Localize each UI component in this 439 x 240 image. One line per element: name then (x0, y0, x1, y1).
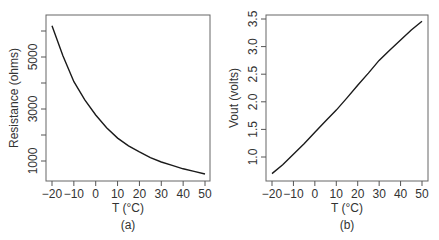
y-axis-label-a: Resistance (ohms) (7, 48, 21, 148)
x-tick-label: 20 (351, 187, 365, 201)
x-tick-label: 30 (155, 187, 169, 201)
x-axis-label-b: T (°C) (331, 201, 363, 215)
x-ticks-a: −20−1001020304050 (42, 181, 212, 201)
chart-b: −20−1001020304050 1.01.52.02.53.03.5 T (… (227, 10, 429, 232)
x-tick-label: −10 (283, 187, 304, 201)
vout-curve (272, 21, 422, 173)
x-tick-label: −20 (262, 187, 283, 201)
panel-label-b: (b) (340, 218, 355, 232)
y-ticks-a: 100030005000 (26, 31, 46, 174)
y-tick-label: 2.5 (246, 66, 260, 83)
x-tick-label: 30 (372, 187, 386, 201)
x-tick-label: 40 (394, 187, 408, 201)
panel-label-a: (a) (121, 218, 136, 232)
x-tick-label: 40 (176, 187, 190, 201)
y-tick-label: 1000 (26, 147, 40, 174)
y-tick-label: 1.0 (246, 148, 260, 165)
x-axis-label-a: T (°C) (112, 201, 144, 215)
x-tick-label: −10 (64, 187, 85, 201)
x-tick-label: −20 (42, 187, 63, 201)
resistance-curve (52, 26, 205, 174)
x-ticks-b: −20−1001020304050 (262, 181, 429, 201)
y-tick-label: 2.0 (246, 93, 260, 110)
y-tick-label: 5000 (26, 43, 40, 70)
y-tick-label: 3.0 (246, 38, 260, 55)
y-ticks-b: 1.01.52.02.53.03.5 (246, 10, 266, 165)
chart-a: −20−1001020304050 100030005000 T (°C) (a… (7, 15, 212, 232)
x-tick-label: 0 (92, 187, 99, 201)
plot-frame-a (46, 15, 210, 181)
x-tick-label: 10 (111, 187, 125, 201)
y-tick-label: 1.5 (246, 121, 260, 138)
x-tick-label: 20 (133, 187, 147, 201)
x-tick-label: 50 (198, 187, 212, 201)
figure: −20−1001020304050 100030005000 T (°C) (a… (0, 0, 439, 240)
x-tick-label: 10 (330, 187, 344, 201)
y-axis-label-b: Vout (volts) (227, 68, 241, 128)
x-tick-label: 0 (312, 187, 319, 201)
y-tick-label: 3.5 (246, 10, 260, 27)
x-tick-label: 50 (415, 187, 429, 201)
y-tick-label: 3000 (26, 95, 40, 122)
